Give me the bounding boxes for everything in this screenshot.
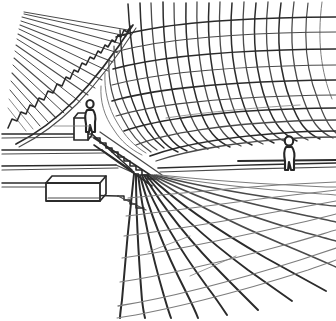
scale-figure-right	[284, 136, 294, 170]
perspective-drawing	[0, 0, 336, 321]
sketch-canvas: Amphitheatre Plaza Perspective terraced …	[0, 0, 336, 321]
scale-figure-stair	[85, 100, 95, 132]
